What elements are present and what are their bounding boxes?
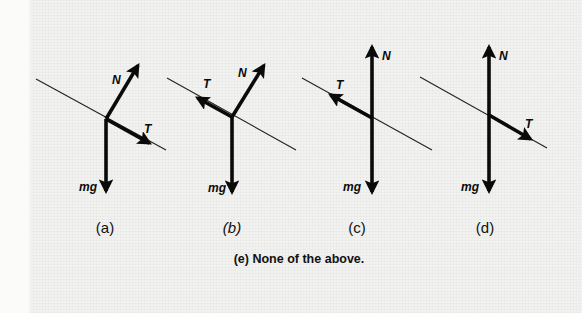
- force-label-n: N: [499, 49, 508, 63]
- force-arrow-t: [106, 119, 150, 143]
- force-label-t: T: [144, 122, 153, 136]
- force-arrow-n: [106, 65, 138, 119]
- force-label-mg: mg: [343, 180, 362, 194]
- force-label-t: T: [336, 78, 345, 92]
- option-a-label: (a): [96, 219, 114, 236]
- option-b-label: (b): [223, 219, 241, 236]
- diagram-a: NTmg: [36, 65, 166, 194]
- force-label-mg: mg: [208, 181, 227, 195]
- option-d-label: (d): [476, 219, 494, 236]
- option-c-label: (c): [348, 219, 366, 236]
- force-arrow-t: [198, 98, 233, 117]
- diagram-b: TNmg: [167, 65, 296, 195]
- diagram-d: NTmg: [420, 47, 547, 194]
- force-label-mg: mg: [79, 180, 98, 194]
- force-label-t: T: [203, 77, 212, 91]
- incline-line: [36, 79, 166, 150]
- option-e-label: (e) None of the above.: [234, 252, 365, 266]
- force-arrow-n: [232, 65, 264, 117]
- force-arrow-t: [331, 95, 373, 118]
- free-body-diagrams: NTmgTNmgNTmgNTmg: [0, 0, 582, 313]
- diagram-page: NTmgTNmgNTmgNTmg (a) (b) (c) (d) (e) Non…: [0, 0, 582, 313]
- force-label-n: N: [112, 73, 121, 87]
- force-label-n: N: [382, 49, 391, 63]
- force-label-t: T: [525, 117, 534, 131]
- force-label-n: N: [238, 66, 247, 80]
- diagram-c: NTmg: [302, 47, 432, 194]
- force-label-mg: mg: [461, 180, 480, 194]
